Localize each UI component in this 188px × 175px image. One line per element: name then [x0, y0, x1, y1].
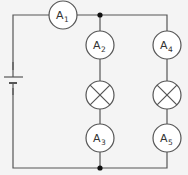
circuit-diagram: A 1 A 2 A 3 A 4 A 5: [0, 0, 188, 175]
svg-text:5: 5: [168, 138, 173, 147]
ammeter-a5: A 5: [153, 124, 181, 152]
lamp-right: [153, 81, 181, 109]
svg-text:A: A: [160, 39, 168, 52]
svg-text:4: 4: [168, 45, 173, 54]
junction-dot-top: [97, 12, 102, 17]
ammeter-a2: A 2: [86, 31, 114, 59]
junction-dot-bottom: [97, 165, 102, 170]
svg-text:2: 2: [101, 45, 106, 54]
ammeter-a3: A 3: [86, 124, 114, 152]
battery-symbol: [3, 62, 23, 95]
svg-text:A: A: [93, 39, 101, 52]
svg-text:A: A: [93, 132, 101, 145]
svg-text:1: 1: [64, 15, 69, 24]
svg-text:3: 3: [101, 138, 106, 147]
svg-text:A: A: [160, 132, 168, 145]
ammeter-a1: A 1: [49, 1, 77, 29]
lamp-left: [86, 81, 114, 109]
svg-text:A: A: [56, 9, 64, 22]
ammeter-a4: A 4: [153, 31, 181, 59]
